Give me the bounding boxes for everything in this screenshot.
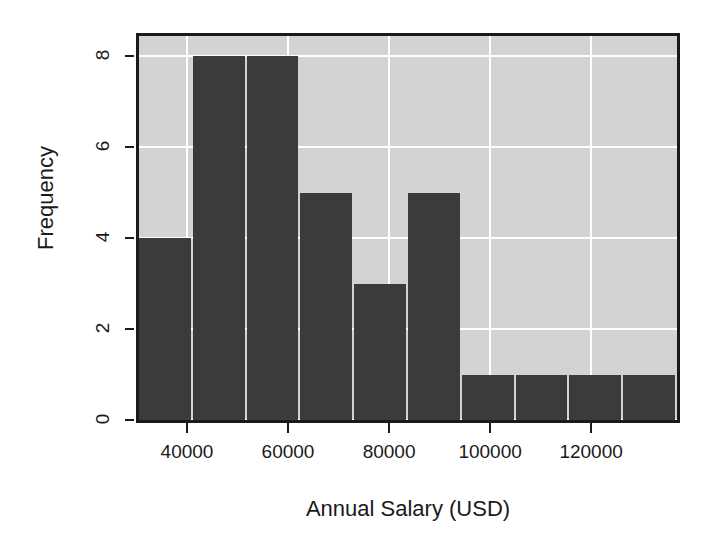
bar-4 (354, 284, 406, 420)
histogram-figure: 02468 400006000080000100000120000 Freque… (0, 0, 713, 555)
gridline-x-3 (489, 36, 491, 420)
x-axis-label: Annual Salary (USD) (136, 496, 680, 522)
x-tick-1 (287, 423, 289, 433)
y-axis-label: Frequency (33, 108, 59, 288)
y-tick-label-2: 4 (92, 222, 114, 252)
y-tick-label-3: 6 (92, 131, 114, 161)
bar-9 (623, 375, 675, 420)
y-tick-label-4: 8 (92, 40, 114, 70)
bar-8 (569, 375, 621, 420)
x-tick-4 (590, 423, 592, 433)
x-tick-0 (186, 423, 188, 433)
bar-3 (300, 193, 352, 420)
bar-0 (139, 238, 191, 420)
bar-7 (516, 375, 568, 420)
y-tick-1 (125, 328, 134, 330)
y-tick-3 (125, 146, 134, 148)
y-tick-4 (125, 55, 134, 57)
y-tick-label-0: 0 (92, 404, 114, 434)
x-tick-2 (388, 423, 390, 433)
x-tick-3 (489, 423, 491, 433)
bar-5 (408, 193, 460, 420)
y-tick-0 (125, 419, 134, 421)
bar-6 (462, 375, 514, 420)
bar-1 (193, 56, 245, 420)
y-tick-2 (125, 237, 134, 239)
gridline-x-4 (590, 36, 592, 420)
bar-2 (247, 56, 299, 420)
x-tick-label-4: 120000 (531, 441, 651, 463)
plot-area (136, 33, 680, 423)
y-tick-label-1: 2 (92, 313, 114, 343)
